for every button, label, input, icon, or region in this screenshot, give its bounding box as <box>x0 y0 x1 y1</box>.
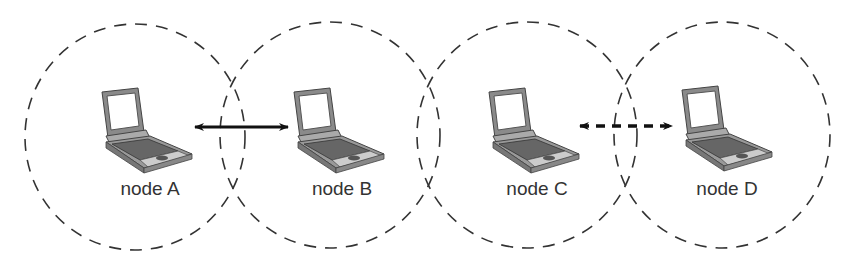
laptop-icon-node-c <box>489 88 579 173</box>
laptop-icon-node-d <box>682 86 772 171</box>
node-c-label: node C <box>506 178 567 200</box>
laptop-icon-node-a <box>102 88 192 173</box>
node-b-label: node B <box>312 178 372 200</box>
node-a-label: node A <box>120 178 179 200</box>
network-diagram <box>0 0 850 267</box>
node-d-label: node D <box>696 178 757 200</box>
laptop-icon-node-b <box>294 88 384 173</box>
